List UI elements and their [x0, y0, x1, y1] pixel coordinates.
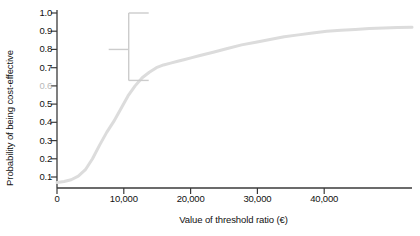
- y-tick-label: 0.5: [18, 99, 52, 109]
- y-tick-0.6: 0.6: [16, 81, 52, 91]
- y-tick-0.3: 0.3: [16, 136, 52, 146]
- y-tick-label: 0.6: [18, 81, 52, 91]
- y-tick-0.2: 0.2: [16, 154, 52, 164]
- y-tick-label: 0.3: [18, 136, 52, 146]
- x-tick-label-40000: 40,000: [289, 193, 359, 204]
- x-tick-label-30000: 30,000: [222, 193, 292, 204]
- y-tick-0.4: 0.4: [16, 117, 52, 127]
- y-tick-0.9: 0.9: [16, 26, 52, 36]
- x-tick-label-10000: 10,000: [89, 193, 159, 204]
- x-tick-label-20000: 20,000: [156, 193, 226, 204]
- x-tick-label-0: 0: [22, 193, 92, 204]
- interval-bracket: [109, 13, 149, 80]
- y-tick-0.7: 0.7: [16, 63, 52, 73]
- y-tick-1.0: 1.0: [16, 8, 52, 18]
- ceac-curve: [57, 27, 412, 182]
- y-tick-label: 0.2: [18, 154, 52, 164]
- y-tick-0.8: 0.8: [16, 44, 52, 54]
- y-tick-0.1: 0.1: [16, 172, 52, 182]
- y-tick-label: 1.0: [18, 8, 52, 18]
- y-tick-label: 0.4: [18, 117, 52, 127]
- y-tick-label: 0.8: [18, 44, 52, 54]
- y-tick-label: 0.1: [18, 172, 52, 182]
- cost-effectiveness-acceptability-chart: Probability of being cost-effective Valu…: [0, 0, 420, 236]
- y-tick-0.5: 0.5: [16, 99, 52, 109]
- y-tick-label: 0.9: [18, 26, 52, 36]
- y-tick-label: 0.7: [18, 63, 52, 73]
